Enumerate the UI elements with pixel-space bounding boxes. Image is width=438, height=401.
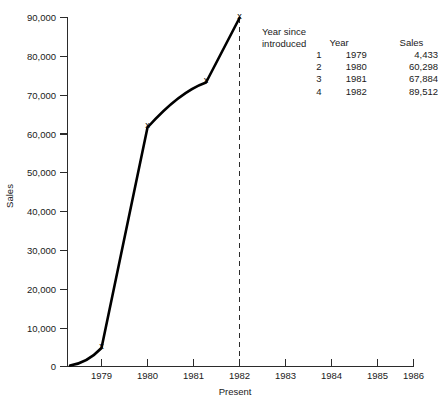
y-tick-label: 70,000 [27, 90, 56, 101]
cell-index: 3 [262, 73, 323, 85]
y-tick-label: 90,000 [27, 12, 56, 23]
y-tick-label: 40,000 [27, 206, 56, 217]
y-tick-label: 0 [51, 361, 56, 372]
x-tick-label: 1979 [91, 370, 112, 381]
y-tick-label: 60,000 [27, 129, 56, 140]
y-tick-label: 10,000 [27, 323, 56, 334]
data-point-markers: x x x x [99, 11, 242, 351]
table-header-year-since-introduced: Year since introduced [262, 26, 323, 49]
data-table: Year since introduced Year Sales 1 1979 … [262, 26, 438, 98]
x-tick-label: 1985 [367, 370, 388, 381]
table-row: 1 1979 4,433 [262, 49, 438, 61]
data-point-marker-1979: x [99, 341, 104, 351]
cell-year: 1979 [323, 49, 366, 61]
sales-data-line [70, 18, 240, 366]
data-point-marker-1980: x [145, 120, 150, 130]
data-value-table: Year since introduced Year Sales 1 1979 … [262, 26, 438, 98]
cell-index: 4 [262, 86, 323, 98]
cell-sales: 4,433 [367, 49, 438, 61]
cell-year: 1980 [323, 61, 366, 73]
x-tick-label: 1982 [229, 370, 250, 381]
table-header-year: Year [323, 26, 366, 49]
x-axis-tick-labels: 1979 1980 1981 1982 1983 1984 1985 1986 [91, 370, 424, 381]
table-row: 2 1980 60,298 [262, 61, 438, 73]
y-axis-ticks [60, 18, 68, 367]
cell-index: 1 [262, 49, 323, 61]
y-axis-tick-labels: 90,000 80,000 70,000 60,000 50,000 40,00… [27, 12, 56, 372]
y-axis-title: Sales [4, 184, 15, 208]
x-tick-label: 1984 [321, 370, 342, 381]
table-row: 3 1981 67,884 [262, 73, 438, 85]
cell-sales: 67,884 [367, 73, 438, 85]
table-header-row: Year since introduced Year Sales [262, 26, 438, 49]
table-row: 4 1982 89,512 [262, 86, 438, 98]
y-tick-label: 20,000 [27, 284, 56, 295]
cell-year: 1981 [323, 73, 366, 85]
x-tick-label: 1983 [275, 370, 296, 381]
y-tick-label: 50,000 [27, 167, 56, 178]
y-tick-label: 80,000 [27, 51, 56, 62]
cell-year: 1982 [323, 86, 366, 98]
sales-forecast-chart: 90,000 80,000 70,000 60,000 50,000 40,00… [0, 0, 438, 401]
data-point-marker-1981: x [204, 75, 209, 85]
x-axis-title: Present [219, 386, 252, 397]
table-header-line1: Year since [262, 26, 321, 38]
cell-sales: 60,298 [367, 61, 438, 73]
table-header-sales: Sales [367, 26, 438, 49]
table-header-line2: introduced [262, 38, 321, 50]
y-tick-label: 30,000 [27, 245, 56, 256]
x-axis-ticks [102, 359, 414, 367]
x-tick-label: 1980 [137, 370, 158, 381]
x-tick-label: 1986 [403, 370, 424, 381]
x-tick-label: 1981 [183, 370, 204, 381]
cell-index: 2 [262, 61, 323, 73]
cell-sales: 89,512 [367, 86, 438, 98]
data-point-marker-1982: x [237, 11, 242, 21]
